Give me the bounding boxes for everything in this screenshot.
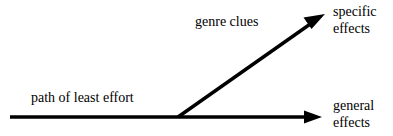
label-specific-effects-line2: effects — [333, 20, 377, 37]
horizontal-arrow-head — [304, 111, 322, 124]
label-general-effects-line2: effects — [333, 114, 374, 131]
horizontal-arrow — [10, 111, 322, 124]
diagonal-arrow-shaft — [178, 24, 311, 118]
label-genre-clues: genre clues — [195, 13, 258, 30]
label-general-effects-line1: general — [333, 97, 374, 114]
label-general-effects: general effects — [333, 97, 374, 131]
label-specific-effects-line1: specific — [333, 3, 377, 20]
label-path-of-least-effort: path of least effort — [31, 89, 134, 106]
diagram-canvas: path of least effort genre clues specifi… — [0, 0, 393, 136]
label-specific-effects: specific effects — [333, 3, 377, 37]
